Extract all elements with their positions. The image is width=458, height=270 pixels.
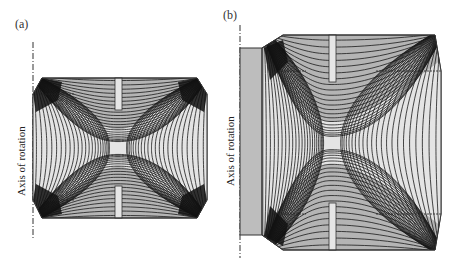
slot-a-bottom [115,186,122,218]
panel-a: (a) Axis of rotation [15,17,207,240]
slot-b-top [329,35,336,82]
panel-b-label: (b) [223,8,237,22]
axis-label-a: Axis of rotation [15,126,27,196]
panel-b: (b) Axis of rotation [223,8,441,258]
inner-block-b [240,48,264,235]
slot-b-bottom [329,203,336,250]
axis-label-b: Axis of rotation [224,116,236,186]
slot-a-top [115,78,122,110]
figure-canvas: (a) Axis of rotation ( [0,0,458,270]
panel-a-label: (a) [15,17,28,31]
